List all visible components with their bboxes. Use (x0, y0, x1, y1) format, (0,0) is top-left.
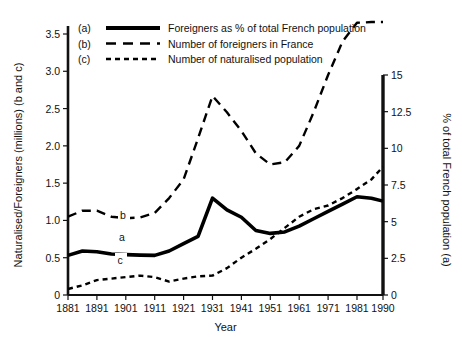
x-axis-tick-label: 1951 (259, 302, 283, 314)
legend-key-b: (b) (78, 38, 91, 50)
chart-container: 00.51.01.52.02.53.03.5 02.557.51012.515 … (0, 0, 462, 350)
legend-label: Number of foreigners in France (168, 38, 313, 50)
series-line-c (68, 167, 383, 289)
y2-axis-title: % of total French population (a) (441, 113, 453, 266)
legend-label: Number of naturalised population (168, 53, 323, 65)
inline-series-label-a: a (119, 231, 125, 243)
inline-series-label-b: b (120, 209, 126, 221)
x-axis-tick-label: 1891 (85, 302, 109, 314)
legend-label: Foreigners as % of total French populati… (168, 22, 366, 34)
population-line-chart: 00.51.01.52.02.53.03.5 02.557.51012.515 … (0, 0, 462, 350)
right-axis-tick-label: 7.5 (391, 179, 406, 191)
inline-series-label-c: c (117, 254, 122, 266)
right-axis-tick-label: 0 (391, 289, 397, 301)
x-axis-title: Year (214, 321, 237, 333)
x-axis-tick-label: 1981 (345, 302, 369, 314)
left-axis-tick-label: 3.5 (45, 28, 60, 40)
left-axis-tick-label: 2.0 (45, 140, 60, 152)
series-line-b (68, 22, 383, 218)
right-axis-tick-label: 10 (391, 142, 403, 154)
left-axis-tick-label: 1.0 (45, 214, 60, 226)
x-axis-tick-label: 1961 (288, 302, 312, 314)
left-axis-tick-label: 1.5 (45, 177, 60, 189)
left-axis: 00.51.01.52.02.53.03.5 (45, 26, 68, 301)
series-line-a (68, 197, 383, 256)
x-axis-tick-label: 1921 (172, 302, 196, 314)
x-axis-tick-label: 1911 (143, 302, 166, 314)
x-axis-tick-label: 1901 (114, 302, 138, 314)
y-axis-title: Naturalised/Foreigners (millions) (b and… (12, 63, 24, 268)
right-axis-tick-label: 5 (391, 216, 397, 228)
x-axis-tick-label: 1941 (230, 302, 254, 314)
right-axis-tick-label: 12.5 (391, 106, 412, 118)
x-axis: 1881189119011911192119311941195119611971… (56, 295, 395, 314)
x-axis-tick-label: 1881 (56, 302, 80, 314)
right-axis-tick-label: 2.5 (391, 252, 406, 264)
chart-legend: (a)Foreigners as % of total French popul… (78, 22, 366, 65)
left-axis-tick-label: 3.0 (45, 65, 60, 77)
right-axis: 02.557.51012.515 (383, 69, 412, 301)
x-axis-tick-label: 1971 (316, 302, 340, 314)
legend-key-c: (c) (78, 53, 90, 65)
right-axis-tick-label: 15 (391, 69, 403, 81)
axis-titles: YearNaturalised/Foreigners (millions) (b… (12, 63, 453, 333)
legend-key-a: (a) (78, 22, 91, 34)
left-axis-tick-label: 0 (54, 289, 60, 301)
left-axis-tick-label: 2.5 (45, 103, 60, 115)
x-axis-tick-label: 1931 (201, 302, 225, 314)
left-axis-tick-label: 0.5 (45, 252, 60, 264)
x-axis-tick-label: 1990 (371, 302, 395, 314)
